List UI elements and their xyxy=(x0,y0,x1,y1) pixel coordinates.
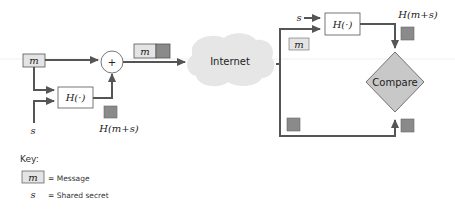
sender-packet: m xyxy=(134,44,170,58)
receiver-message-box: m xyxy=(289,38,309,50)
sender-hash-box: H(·) xyxy=(58,87,93,108)
mac-diagram: m s H(·) H(m+s) + m Internet s H(·) xyxy=(0,0,455,219)
received-hash-square-right xyxy=(401,119,414,132)
receiver-hash-label: H(·) xyxy=(332,19,353,30)
receiver-hash-box: H(·) xyxy=(325,13,360,35)
sender-hash-label: H(·) xyxy=(65,92,86,103)
packet-message-label: m xyxy=(140,46,149,57)
received-hash-square-left xyxy=(287,118,300,131)
sender-message-label: m xyxy=(29,55,38,66)
receiver-secret-label: s xyxy=(296,12,301,23)
compare-label: Compare xyxy=(372,77,417,88)
key-secret-description: = Shared secret xyxy=(48,191,109,200)
compare-node: Compare xyxy=(366,52,424,112)
internet-label: Internet xyxy=(210,56,250,67)
key-item-secret: s = Shared secret xyxy=(30,189,108,200)
sender-secret-label: s xyxy=(30,125,35,136)
key-item-message: m = Message xyxy=(22,171,90,183)
sender-hash-output-label: H(m+s) xyxy=(98,123,139,134)
key-secret-symbol: s xyxy=(30,189,35,200)
key-message-description: = Message xyxy=(48,174,90,183)
receiver-computed-hash-square xyxy=(401,27,414,40)
packet-hash-square xyxy=(156,44,170,58)
plus-node: + xyxy=(101,51,123,73)
key-message-symbol: m xyxy=(28,172,37,183)
sender-message-box: m xyxy=(23,54,45,67)
internet-cloud: Internet xyxy=(187,33,274,86)
sender-hash-square xyxy=(104,106,117,118)
receiver-message-label: m xyxy=(294,39,303,50)
key-title: Key: xyxy=(20,154,39,164)
plus-label: + xyxy=(108,57,116,68)
receiver-hash-output-label: H(m+s) xyxy=(397,9,438,20)
